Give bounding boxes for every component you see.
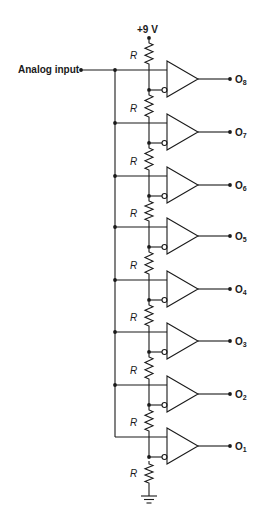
output-terminal-dot: [228, 234, 232, 238]
output-terminal-dot: [228, 183, 232, 187]
ladder-resistor: [145, 145, 153, 173]
resistor-label: R: [130, 260, 137, 271]
ladder-resistor: [145, 92, 153, 120]
ladder-resistor: [145, 249, 153, 277]
output-subscript: 8: [243, 79, 247, 86]
flash-adc-diagram: +9 V Analog input RO8RO7RO6RO5RO4RO3RO2R…: [0, 0, 263, 529]
comparator-triangle: [167, 271, 198, 307]
comparator-triangle: [167, 323, 198, 359]
ladder-resistor: [145, 354, 153, 382]
output-label-o6: O6: [235, 180, 247, 192]
analog-input-label: Analog input: [18, 64, 80, 75]
output-label-o5: O5: [235, 231, 247, 243]
output-label-o1: O1: [235, 441, 247, 453]
resistor-label: R: [130, 208, 137, 219]
output-subscript: 2: [243, 394, 247, 401]
resistor-label: R: [130, 468, 137, 479]
output-subscript: 3: [243, 341, 247, 348]
inversion-bubble: [162, 194, 167, 199]
output-subscript: 4: [243, 289, 247, 296]
resistor-label: R: [130, 312, 137, 323]
output-terminal-dot: [228, 339, 232, 343]
output-subscript: 1: [243, 446, 247, 453]
inversion-bubble: [162, 455, 167, 460]
output-subscript: 7: [243, 132, 247, 139]
resistor-label: R: [130, 417, 137, 428]
resistor-label: R: [130, 103, 137, 114]
output-subscript: 5: [243, 236, 247, 243]
comparator-triangle: [167, 376, 198, 412]
comparator-triangle: [167, 167, 198, 203]
output-subscript: 6: [243, 185, 247, 192]
resistor-label: R: [130, 365, 137, 376]
comparator-triangle: [167, 61, 198, 97]
output-terminal-dot: [228, 130, 232, 134]
ladder-resistor: [145, 302, 153, 329]
circuit-wires: RO8RO7RO6RO5RO4RO3RO2RO1R: [79, 36, 247, 503]
resistor-label: R: [130, 156, 137, 167]
supply-voltage-label: +9 V: [137, 24, 158, 35]
output-label-o7: O7: [235, 127, 247, 139]
ladder-resistor: [145, 40, 153, 67]
output-label-o8: O8: [235, 74, 247, 86]
inversion-bubble: [162, 298, 167, 303]
inversion-bubble: [162, 245, 167, 250]
output-terminal-dot: [228, 392, 232, 396]
output-terminal-dot: [228, 287, 232, 291]
comparator-triangle: [167, 428, 198, 464]
output-label-o4: O4: [235, 284, 247, 296]
inversion-bubble: [162, 141, 167, 146]
resistor-label: R: [130, 50, 137, 61]
comparator-triangle: [167, 218, 198, 254]
comparator-triangle: [167, 114, 198, 150]
ladder-resistor: [145, 407, 153, 434]
inversion-bubble: [162, 403, 167, 408]
output-terminal-dot: [228, 77, 232, 81]
ladder-resistor: [145, 198, 153, 224]
output-label-o3: O3: [235, 336, 247, 348]
output-label-o2: O2: [235, 389, 247, 401]
supply-terminal-dot: [147, 36, 151, 40]
inversion-bubble: [162, 350, 167, 355]
output-terminal-dot: [228, 444, 232, 448]
ground-resistor: [145, 461, 153, 486]
inversion-bubble: [162, 88, 167, 93]
